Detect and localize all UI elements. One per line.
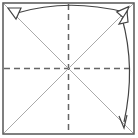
- origami-diagram: [0, 0, 138, 138]
